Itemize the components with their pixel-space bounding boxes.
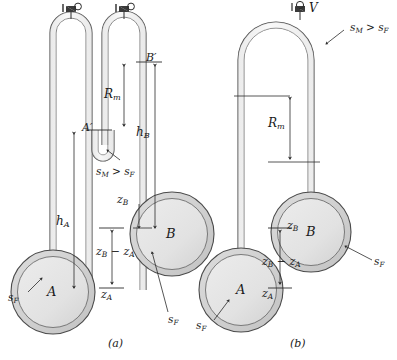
label-ha-a: hA	[56, 215, 70, 228]
diagram-canvas	[0, 0, 397, 360]
label-za-b: zA	[262, 288, 273, 301]
figure-root: A′ B′ Rm hB hA zB zB − zA zA sM > sF sF …	[0, 0, 397, 360]
panel-b-graphics	[199, 1, 372, 332]
label-sm-gt-sf-b: sM > sF	[350, 22, 389, 34]
leader-sf-sphere-b-b	[345, 246, 372, 260]
label-rm-b: Rm	[268, 117, 285, 130]
label-sf-left-b: sF	[196, 320, 206, 332]
label-sf-left-a: sF	[8, 292, 18, 304]
sphere-b-label-panel-a: B	[166, 227, 176, 240]
sphere-a-label-panel-a: A	[47, 285, 56, 298]
sphere-a-label-panel-b: A	[236, 283, 245, 296]
label-za-a: zA	[101, 289, 112, 302]
label-valve-b: V	[309, 2, 318, 14]
label-a-prime: A′	[82, 122, 92, 133]
label-zb-minus-za-a: zB − zA	[96, 246, 135, 259]
label-zb-b: zB	[287, 220, 298, 233]
label-zb-minus-za-b: zB − zA	[262, 256, 301, 269]
label-b-prime: B′	[146, 52, 157, 63]
label-hb-a: hB	[136, 126, 150, 139]
label-rm-a: Rm	[104, 88, 121, 101]
valve-icon-b[interactable]	[292, 1, 305, 20]
label-zb-a: zB	[117, 194, 128, 207]
label-sm-gt-sf-a: sM > sF	[96, 166, 135, 178]
label-sf-right-b: sF	[374, 256, 384, 268]
label-sf-right-a: sF	[168, 314, 178, 326]
sphere-b-label-panel-b: B	[306, 225, 316, 238]
leader-sm-sf-b	[326, 30, 344, 44]
caption-b: (b)	[290, 338, 306, 349]
caption-a: (a)	[108, 338, 123, 349]
